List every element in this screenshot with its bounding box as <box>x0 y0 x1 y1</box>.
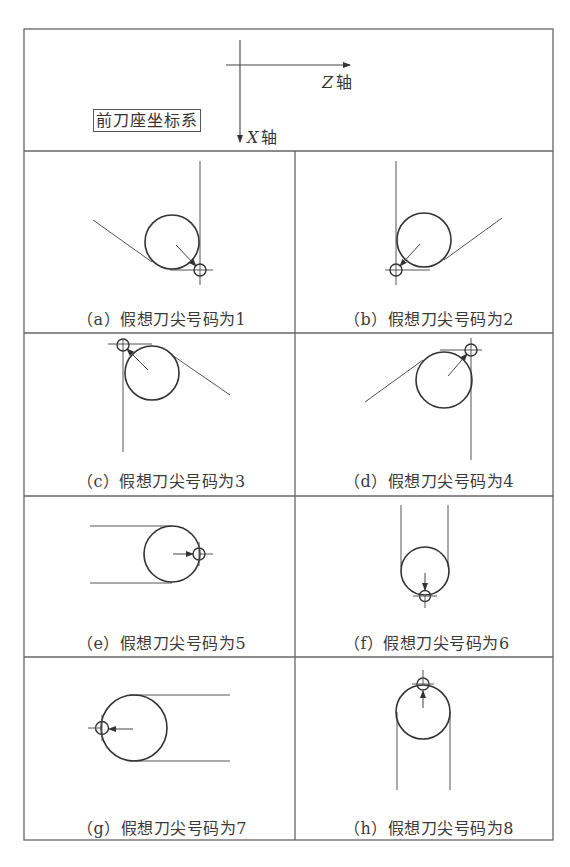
tool-tip-diagram <box>0 0 570 867</box>
caption-a: （a）假想刀尖号码为1 <box>77 306 246 330</box>
x-axis-letter: X <box>247 128 258 147</box>
z-axis-letter: Z <box>322 73 333 92</box>
caption-d: （d）假想刀尖号码为4 <box>344 468 514 492</box>
caption-g: （g）假想刀尖号码为7 <box>77 815 247 839</box>
tip-diagram-h <box>396 670 450 790</box>
tip-diagram-b <box>385 161 502 285</box>
caption-f: （f）假想刀尖号码为6 <box>344 630 510 654</box>
tip-diagram-g <box>88 695 230 761</box>
coordinate-system-label: 前刀座坐标系 <box>93 109 201 132</box>
caption-b: （b）假想刀尖号码为2 <box>344 306 514 330</box>
z-axis-label: Z轴 <box>322 69 352 93</box>
tip-diagram-e <box>90 526 213 583</box>
caption-h: （h）假想刀尖号码为8 <box>344 815 514 839</box>
caption-c: （c）假想刀尖号码为3 <box>77 468 246 492</box>
x-axis-suffix: 轴 <box>261 128 277 147</box>
table-grid <box>24 29 553 840</box>
tip-diagram-d <box>365 338 482 460</box>
caption-e: （e）假想刀尖号码为5 <box>77 630 246 654</box>
z-axis-suffix: 轴 <box>336 73 352 92</box>
tip-diagram-c <box>108 339 230 452</box>
x-axis-label: X轴 <box>247 124 277 148</box>
tip-diagram-a <box>93 161 213 285</box>
tip-diagram-f <box>401 505 449 608</box>
